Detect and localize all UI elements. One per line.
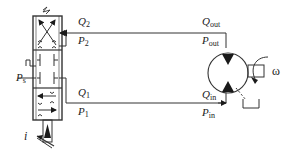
crossed-flow-arrows-icon xyxy=(38,20,56,48)
label-q2-symbol: Q xyxy=(78,15,86,27)
label-qin: Qin xyxy=(202,89,216,100)
motor-triangle-bottom-icon xyxy=(222,81,234,92)
label-pout-subscript: out xyxy=(209,39,219,48)
label-qin-subscript: in xyxy=(210,93,216,102)
hydraulic-circuit-diagram xyxy=(0,0,297,149)
hydraulic-motor xyxy=(208,53,268,108)
label-q1: Q1 xyxy=(78,87,90,98)
label-qout-subscript: out xyxy=(210,20,220,29)
motor-shaft xyxy=(248,65,264,77)
leakage-line xyxy=(236,88,246,100)
label-q1-symbol: Q xyxy=(78,86,86,98)
label-p2: P2 xyxy=(78,35,89,46)
label-qout: Qout xyxy=(202,16,220,27)
label-pin-subscript: in xyxy=(209,111,215,120)
torque-motor xyxy=(37,120,54,148)
spring-icon xyxy=(43,7,50,14)
label-q1-subscript: 1 xyxy=(86,91,90,100)
blocked-ports-icon xyxy=(37,54,58,84)
label-pin: Pin xyxy=(202,107,215,118)
label-pout: Pout xyxy=(202,35,219,46)
label-q2: Q2 xyxy=(78,16,90,27)
label-pin-symbol: P xyxy=(202,106,209,118)
port-2-arrow-icon xyxy=(60,30,67,37)
label-qout-symbol: Q xyxy=(202,15,210,27)
motor-triangle-top-icon xyxy=(222,54,234,65)
label-ps: Ps xyxy=(16,72,26,83)
label-ps-symbol: P xyxy=(16,71,23,83)
label-omega-symbol: ω xyxy=(272,64,280,78)
parallel-flow-arrows-icon xyxy=(38,92,56,116)
tank-icon xyxy=(243,99,259,108)
rotation-arrow-icon xyxy=(253,57,268,79)
label-p1-subscript: 1 xyxy=(85,110,89,119)
label-ps-subscript: s xyxy=(23,76,26,85)
label-omega: ω xyxy=(272,65,280,77)
label-qin-symbol: Q xyxy=(202,88,210,100)
label-p1-symbol: P xyxy=(78,105,85,117)
label-p2-symbol: P xyxy=(78,34,85,46)
label-i: i xyxy=(24,130,27,142)
label-q2-subscript: 2 xyxy=(86,20,90,29)
label-pout-symbol: P xyxy=(202,34,209,46)
label-i-symbol: i xyxy=(24,129,27,143)
label-p1: P1 xyxy=(78,106,89,117)
label-p2-subscript: 2 xyxy=(85,39,89,48)
